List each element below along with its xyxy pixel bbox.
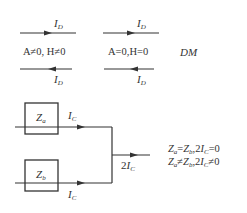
left-bottom-current-line [20, 67, 72, 72]
current-subscript: D [58, 23, 63, 31]
arrow-right-icon [130, 153, 138, 158]
left-condition-label: A≠0, H≠0 [23, 47, 65, 58]
branch-b-wire [15, 181, 112, 186]
equation-balanced: Za=Zb,2IC=0 [168, 144, 220, 156]
impedance-subscript: a [42, 117, 46, 125]
right-top-current-line [103, 31, 159, 36]
current-subscript: D [141, 23, 146, 31]
right-bottom-current-label: ID [137, 74, 146, 87]
branch-a-current-label: IC [68, 110, 76, 123]
impedance-b-label: Zb [36, 169, 46, 182]
current-subscript: C [130, 165, 135, 173]
output-current-label: 2IC [121, 160, 135, 173]
right-bottom-current-line [104, 67, 154, 72]
left-top-current-line [20, 31, 76, 36]
impedance-subscript: b [42, 174, 46, 182]
left-bottom-current-label: ID [54, 74, 63, 87]
current-subscript: C [72, 194, 77, 202]
output-wire [112, 153, 150, 158]
current-subscript: D [141, 79, 146, 87]
current-subscript: C [72, 115, 77, 123]
arrow-right-icon [127, 31, 135, 36]
right-top-current-label: ID [137, 18, 146, 31]
right-condition-label: A=0,H=0 [108, 47, 148, 58]
differential-mode-label: DM [180, 47, 197, 58]
left-top-current-label: ID [54, 18, 63, 31]
arrow-left-icon [48, 67, 56, 72]
current-subscript: D [58, 79, 63, 87]
equation-unbalanced: Za≠Zb,2IC≠0 [168, 157, 220, 169]
branch-b-current-label: IC [68, 189, 76, 202]
eq-rest-post: ≠0 [209, 156, 220, 167]
arrow-right-icon [77, 181, 85, 186]
branch-a-wire [15, 125, 112, 130]
arrow-left-icon [130, 67, 138, 72]
arrow-right-icon [44, 31, 52, 36]
arrow-right-icon [77, 125, 85, 130]
impedance-a-label: Za [36, 112, 46, 125]
eq-rest-post: =0 [209, 143, 220, 154]
